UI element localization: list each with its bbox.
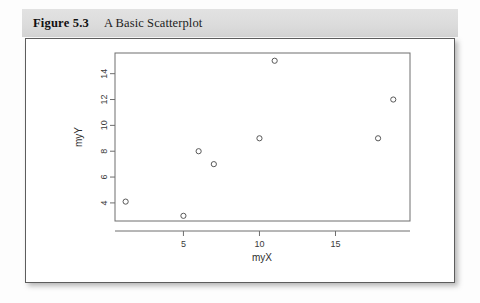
figure-number: Figure 5.3	[33, 16, 89, 31]
figure-card: 468101214 51015 myX myY	[25, 38, 455, 283]
y-tick-label: 8	[99, 149, 109, 154]
x-axis: 51015	[115, 231, 410, 249]
data-point-marker	[211, 162, 216, 167]
plot-frame	[115, 53, 410, 221]
y-tick-label: 10	[99, 120, 109, 130]
page-scan-surface: Figure 5.3 A Basic Scatterplot 468101214…	[0, 0, 480, 303]
x-tick-label: 15	[330, 239, 340, 249]
data-point-marker	[391, 97, 396, 102]
scatterplot: 468101214 51015 myX myY	[26, 39, 454, 282]
x-tick-label: 10	[254, 239, 264, 249]
y-tick-label: 12	[99, 95, 109, 105]
y-tick-label: 4	[99, 200, 109, 205]
y-tick-label: 14	[99, 69, 109, 79]
data-point-marker	[181, 213, 186, 218]
x-tick-label: 5	[181, 239, 186, 249]
data-point-marker	[257, 136, 262, 141]
data-point-marker	[196, 149, 201, 154]
figure-title: A Basic Scatterplot	[104, 16, 202, 31]
y-axis: 468101214	[99, 69, 115, 206]
plot-frame-rect	[115, 53, 410, 221]
y-tick-label: 6	[99, 175, 109, 180]
data-point-marker	[375, 136, 380, 141]
data-point-marker	[272, 58, 277, 63]
data-points	[123, 58, 396, 218]
x-axis-title: myX	[252, 252, 272, 263]
y-axis-title: myY	[73, 127, 84, 147]
figure-caption-band: Figure 5.3 A Basic Scatterplot	[22, 9, 458, 37]
data-point-marker	[123, 199, 128, 204]
